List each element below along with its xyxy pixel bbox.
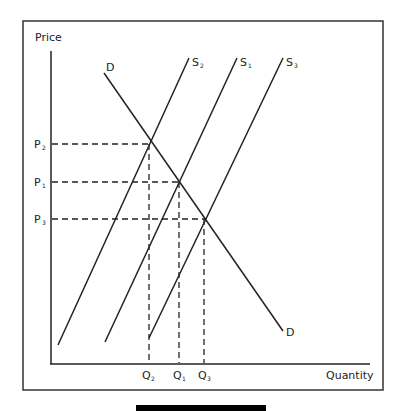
supply-label-s1: S 1 [240, 56, 252, 69]
svg-text:S: S [286, 56, 293, 69]
svg-text:2: 2 [151, 375, 155, 382]
svg-text:3: 3 [42, 219, 46, 226]
quantity-label-q2: Q 2 [142, 369, 155, 382]
svg-text:Q: Q [173, 369, 182, 382]
svg-text:S: S [240, 56, 247, 69]
svg-text:P: P [34, 176, 41, 189]
quantity-label-q3: Q 3 [198, 369, 211, 382]
y-axis-label: Price [35, 31, 62, 44]
svg-text:3: 3 [294, 62, 298, 69]
svg-text:2: 2 [42, 144, 46, 151]
price-label-p1: P 1 [34, 176, 46, 189]
svg-text:3: 3 [207, 375, 211, 382]
demand-curve [104, 73, 283, 331]
svg-text:2: 2 [200, 62, 204, 69]
supply-demand-diagram: Price Quantity D D S 2 S 1 S 3 P 2 P 1 P… [0, 0, 403, 411]
supply-label-s2: S 2 [192, 56, 204, 69]
svg-text:1: 1 [248, 62, 252, 69]
price-label-p3: P 3 [34, 213, 46, 226]
supply-label-s3: S 3 [286, 56, 298, 69]
svg-text:Q: Q [198, 369, 207, 382]
diagram-frame [23, 21, 383, 390]
price-label-p2: P 2 [34, 138, 46, 151]
quantity-label-q1: Q 1 [173, 369, 186, 382]
demand-label-top: D [106, 61, 114, 74]
svg-text:Q: Q [142, 369, 151, 382]
redaction-bar [136, 405, 266, 411]
demand-label-bottom: D [286, 326, 294, 339]
x-axis-label: Quantity [326, 369, 374, 382]
svg-text:P: P [34, 213, 41, 226]
svg-text:1: 1 [182, 375, 186, 382]
svg-text:1: 1 [42, 182, 46, 189]
svg-text:P: P [34, 138, 41, 151]
svg-text:S: S [192, 56, 199, 69]
